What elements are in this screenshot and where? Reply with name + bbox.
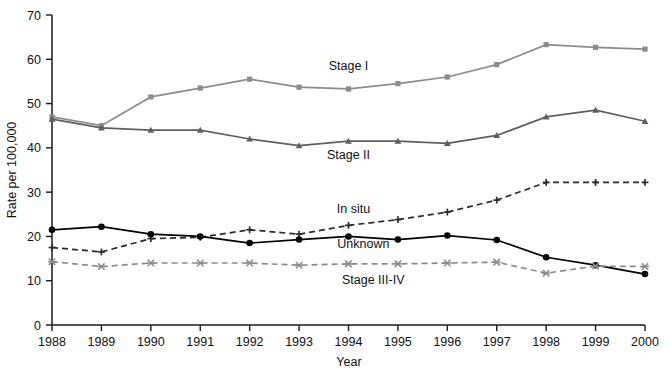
data-point-plus	[345, 222, 352, 229]
data-point-circle	[246, 240, 253, 247]
data-point-square	[148, 94, 153, 99]
data-point-plus	[592, 179, 599, 186]
data-point-square	[544, 42, 549, 47]
y-tick-label: 70	[27, 9, 41, 23]
data-point-square	[198, 85, 203, 90]
data-point-x	[246, 260, 254, 266]
x-tick-label: 1995	[384, 335, 412, 349]
series-label-stage-i: Stage I	[329, 59, 369, 73]
data-point-square	[494, 62, 499, 67]
y-tick-label: 30	[27, 186, 41, 200]
y-axis-ticks: 010203040506070	[27, 9, 52, 333]
y-tick-label: 20	[27, 230, 41, 244]
y-axis-title: Rate per 100,000	[5, 122, 19, 219]
data-point-plus	[493, 197, 500, 204]
data-point-circle	[296, 236, 303, 243]
data-point-plus	[246, 226, 253, 233]
data-point-circle	[543, 254, 550, 261]
x-tick-label: 1997	[483, 335, 511, 349]
x-tick-label: 2000	[631, 335, 659, 349]
x-axis-ticks: 1988198919901991199219931994199519961997…	[38, 325, 659, 349]
data-point-square	[247, 77, 252, 82]
series-label-stage-iii-iv: Stage III-IV	[342, 273, 405, 287]
x-axis-title: Year	[336, 355, 361, 369]
data-point-circle	[49, 226, 56, 233]
data-point-plus	[543, 179, 550, 186]
data-point-x	[394, 261, 402, 267]
series-annotations: Stage IStage IIIn situUnknownStage III-I…	[327, 59, 405, 286]
x-tick-label: 1998	[532, 335, 560, 349]
data-point-square	[296, 85, 301, 90]
data-point-plus	[642, 179, 649, 186]
x-tick-label: 1991	[186, 335, 214, 349]
series-path	[52, 45, 645, 126]
y-tick-label: 60	[27, 53, 41, 67]
x-tick-label: 1993	[285, 335, 313, 349]
data-point-square	[395, 81, 400, 86]
y-tick-label: 40	[27, 141, 41, 155]
data-point-x	[97, 263, 105, 269]
data-point-x	[443, 260, 451, 266]
x-tick-label: 1994	[335, 335, 363, 349]
y-tick-label: 10	[27, 274, 41, 288]
data-point-square	[642, 47, 647, 52]
data-point-x	[196, 260, 204, 266]
data-point-x	[493, 259, 501, 265]
series-label-in-situ: In situ	[337, 202, 370, 216]
data-point-plus	[98, 249, 105, 256]
data-point-plus	[49, 244, 56, 251]
x-tick-label: 1996	[433, 335, 461, 349]
line-chart: 010203040506070 198819891990199119921993…	[0, 0, 669, 372]
data-point-circle	[493, 237, 500, 244]
data-point-x	[641, 263, 649, 269]
data-point-x	[542, 270, 550, 276]
data-point-circle	[148, 231, 155, 238]
y-tick-label: 50	[27, 97, 41, 111]
data-point-square	[346, 86, 351, 91]
data-point-plus	[444, 209, 451, 216]
data-point-square	[593, 45, 598, 50]
x-tick-label: 1992	[236, 335, 264, 349]
data-point-circle	[444, 232, 451, 239]
data-point-circle	[642, 271, 649, 278]
data-point-circle	[197, 233, 204, 240]
chart-canvas: 010203040506070 198819891990199119921993…	[0, 0, 669, 372]
data-point-circle	[98, 223, 105, 230]
series-label-unknown: Unknown	[337, 237, 389, 251]
data-point-x	[345, 261, 353, 267]
y-tick-label: 0	[34, 319, 41, 333]
x-tick-label: 1999	[582, 335, 610, 349]
x-tick-label: 1988	[38, 335, 66, 349]
series-label-stage-ii: Stage II	[327, 148, 370, 162]
x-tick-label: 1989	[88, 335, 116, 349]
data-point-square	[445, 74, 450, 79]
data-point-circle	[395, 236, 402, 243]
data-point-x	[147, 260, 155, 266]
x-tick-label: 1990	[137, 335, 165, 349]
data-point-plus	[395, 216, 402, 223]
data-point-x	[295, 262, 303, 268]
series-stage-ii	[49, 107, 649, 148]
